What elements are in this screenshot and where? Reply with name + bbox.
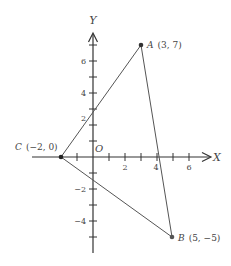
origin-label: O bbox=[95, 143, 103, 154]
y-tick-label: 2 bbox=[81, 114, 86, 123]
y-tick-label: −2 bbox=[74, 185, 86, 194]
x-axis-label: X bbox=[212, 151, 222, 164]
coordinate-diagram: Y X O 2 4 6 6 4 2 −2 −4 A(3, 7) B(5, −5)… bbox=[0, 0, 231, 266]
x-tick-label: 2 bbox=[122, 163, 127, 172]
y-axis-label: Y bbox=[89, 14, 98, 27]
point-b bbox=[170, 235, 175, 240]
point-c-label: C(−2, 0) bbox=[15, 142, 58, 152]
triangle-abc bbox=[61, 45, 172, 237]
point-a-label: A(3, 7) bbox=[146, 40, 182, 50]
y-tick-label: 6 bbox=[81, 57, 86, 66]
x-tick-label: 4 bbox=[153, 163, 158, 172]
y-tick-label: −4 bbox=[74, 217, 86, 226]
x-tick-label: 6 bbox=[186, 163, 191, 172]
segment-ab bbox=[141, 45, 172, 237]
point-a bbox=[139, 43, 144, 48]
point-b-label: B(5, −5) bbox=[177, 233, 220, 243]
y-tick-label: 4 bbox=[81, 89, 86, 98]
segment-ca bbox=[61, 45, 141, 157]
point-c bbox=[59, 155, 64, 160]
